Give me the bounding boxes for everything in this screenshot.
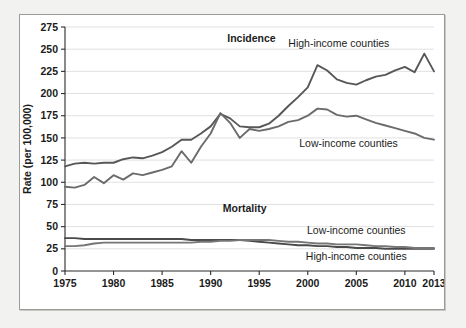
x-tick-label-2013: 2013 bbox=[422, 277, 444, 289]
figure-root: 0255075100125150175200225250275197519801… bbox=[0, 0, 466, 328]
y-tick-label-25: 25 bbox=[46, 242, 58, 254]
y-tick-label-0: 0 bbox=[52, 265, 58, 277]
y-tick-label-150: 150 bbox=[40, 132, 58, 144]
y-tick-label-125: 125 bbox=[40, 154, 58, 166]
x-tick-label-1985: 1985 bbox=[150, 277, 174, 289]
annotation-incidence-group: Incidence bbox=[227, 32, 276, 44]
y-axis-title: Rate (per 100,000) bbox=[21, 104, 33, 194]
x-tick-label-1995: 1995 bbox=[248, 277, 272, 289]
x-tick-label-1980: 1980 bbox=[102, 277, 126, 289]
y-tick-label-75: 75 bbox=[46, 198, 58, 210]
y-tick-label-50: 50 bbox=[46, 220, 58, 232]
line-chart: 0255075100125150175200225250275197519801… bbox=[20, 15, 444, 309]
annotation-mortality-low: Low-income counties bbox=[307, 224, 406, 236]
x-tick-label-1975: 1975 bbox=[53, 277, 77, 289]
x-tick-label-2010: 2010 bbox=[393, 277, 417, 289]
annotation-mortality-high: High-income counties bbox=[306, 250, 407, 262]
y-tick-label-175: 175 bbox=[40, 109, 58, 121]
annotation-incidence-high: High-income counties bbox=[288, 37, 389, 49]
y-tick-label-275: 275 bbox=[40, 21, 58, 33]
series-line-0 bbox=[65, 54, 434, 167]
chart-panel: 0255075100125150175200225250275197519801… bbox=[19, 14, 445, 310]
x-tick-label-2000: 2000 bbox=[296, 277, 320, 289]
x-tick-label-2005: 2005 bbox=[345, 277, 369, 289]
y-tick-label-100: 100 bbox=[40, 176, 58, 188]
y-tick-label-250: 250 bbox=[40, 43, 58, 55]
y-tick-label-225: 225 bbox=[40, 65, 58, 77]
annotation-incidence-low: Low-income counties bbox=[299, 137, 398, 149]
annotation-mortality-group: Mortality bbox=[223, 202, 267, 214]
y-tick-label-200: 200 bbox=[40, 87, 58, 99]
x-tick-label-1990: 1990 bbox=[199, 277, 223, 289]
